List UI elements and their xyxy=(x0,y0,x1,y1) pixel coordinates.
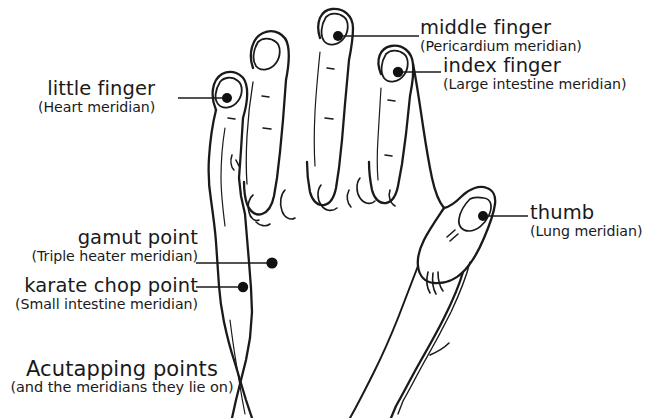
wrist-right-edge xyxy=(391,272,463,418)
middle-finger-nail xyxy=(322,14,348,45)
label-thumb-meridian: (Lung meridian) xyxy=(530,224,642,239)
thumb-point xyxy=(478,211,488,221)
label-karate-chop-point: karate chop point (Small intestine merid… xyxy=(2,276,198,312)
label-middle-finger-title: middle finger xyxy=(420,18,582,39)
thumb-crease-b xyxy=(450,234,458,241)
label-index-finger: index finger (Large intestine meridian) xyxy=(443,56,627,92)
label-gamut-point-title: gamut point xyxy=(2,228,198,249)
knuckle-crease-index-2 xyxy=(347,190,351,207)
knuckle-crease-pinky-2 xyxy=(256,222,270,226)
figure-caption-subtitle: (and the meridians they lie on) xyxy=(2,380,242,395)
label-little-finger-meridian: (Heart meridian) xyxy=(38,100,155,115)
gamut-point-dot xyxy=(266,257,277,268)
thumb-crease-a xyxy=(447,230,455,237)
label-middle-finger: middle finger (Pericardium meridian) xyxy=(420,18,582,54)
label-gamut-point: gamut point (Triple heater meridian) xyxy=(2,228,198,264)
finger-crease-ring-b xyxy=(263,128,271,129)
middle-finger-outline xyxy=(307,9,353,205)
little-finger-nail xyxy=(216,78,242,108)
wrist-crease-right xyxy=(430,343,449,355)
finger-crease-pinky-a xyxy=(228,118,235,119)
tendon-mark-pinky xyxy=(231,155,234,170)
pinky-inner-line xyxy=(221,128,225,226)
karate-chop-point-dot xyxy=(238,282,248,292)
ring-finger-outline xyxy=(244,31,289,214)
label-karate-chop-point-title: karate chop point xyxy=(2,276,198,297)
acutapping-hand-diagram: little finger (Heart meridian) middle fi… xyxy=(0,0,653,418)
middle-finger-inner-line xyxy=(314,52,320,166)
finger-crease-mid-a xyxy=(327,68,334,69)
thumb-web-crease-3 xyxy=(438,272,443,291)
label-little-finger: little finger (Heart meridian) xyxy=(38,79,155,115)
index-finger-inner-line xyxy=(377,88,381,180)
label-karate-chop-point-meridian: (Small intestine meridian) xyxy=(2,297,198,312)
little-finger-point xyxy=(222,93,232,103)
middle-finger-point xyxy=(333,31,343,41)
finger-crease-mid-b xyxy=(325,118,333,119)
finger-crease-idx-b xyxy=(385,155,392,156)
knuckle-crease-middle xyxy=(318,185,337,210)
label-index-finger-title: index finger xyxy=(443,56,627,77)
label-little-finger-title: little finger xyxy=(38,79,155,100)
label-thumb: thumb (Lung meridian) xyxy=(530,203,642,239)
label-thumb-title: thumb xyxy=(530,203,642,224)
index-finger-point xyxy=(393,67,403,77)
index-finger-nail xyxy=(382,51,408,82)
finger-crease-ring-a xyxy=(262,96,269,97)
figure-caption: Acutapping points (and the meridians the… xyxy=(2,358,242,396)
knuckle-creases-group xyxy=(228,68,458,355)
palm-index-web xyxy=(413,64,444,208)
ring-finger-nail xyxy=(254,39,280,70)
finger-crease-idx-a xyxy=(388,100,395,101)
figure-caption-title: Acutapping points xyxy=(2,358,242,380)
label-gamut-point-meridian: (Triple heater meridian) xyxy=(2,249,198,264)
thumb-lower-edge xyxy=(350,266,418,418)
tendon-mark-pinky-2 xyxy=(236,160,239,166)
label-index-finger-meridian: (Large intestine meridian) xyxy=(443,77,627,92)
label-middle-finger-meridian: (Pericardium meridian) xyxy=(420,39,582,54)
knuckle-crease-ring xyxy=(281,190,295,219)
